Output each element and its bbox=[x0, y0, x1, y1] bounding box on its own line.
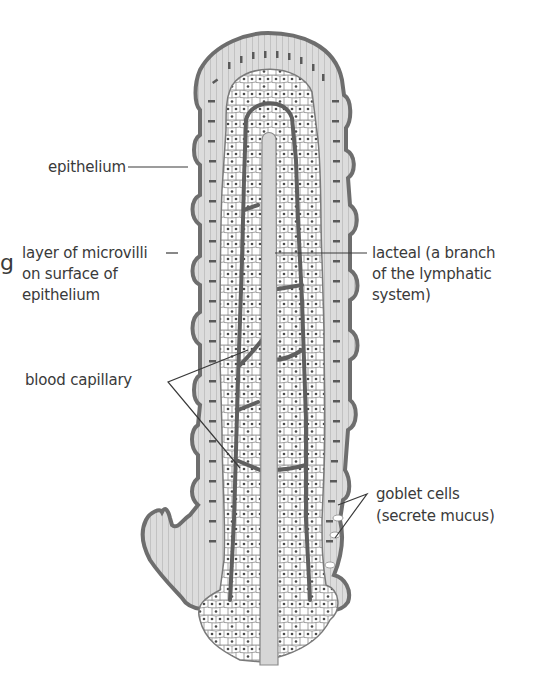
label-goblet-line1: goblet cells bbox=[376, 484, 460, 504]
lacteal bbox=[260, 133, 278, 666]
label-microvilli-line3: epithelium bbox=[22, 285, 100, 305]
label-lacteal-line3: system) bbox=[372, 285, 431, 305]
label-epithelium: epithelium bbox=[30, 157, 126, 177]
label-blood-capillary: blood capillary bbox=[25, 370, 132, 390]
villus-diagram: epithelium layer of microvilli on surfac… bbox=[0, 0, 549, 682]
label-microvilli-line2: on surface of bbox=[22, 264, 118, 284]
label-microvilli-line1: layer of microvilli bbox=[22, 243, 147, 263]
cropped-text-fragment: g bbox=[0, 250, 14, 275]
label-lacteal-line1: lacteal (a branch bbox=[372, 243, 495, 263]
label-goblet-line2: (secrete mucus) bbox=[376, 506, 495, 526]
label-lacteal-line2: of the lymphatic bbox=[372, 264, 492, 284]
villus-illustration bbox=[0, 0, 549, 682]
